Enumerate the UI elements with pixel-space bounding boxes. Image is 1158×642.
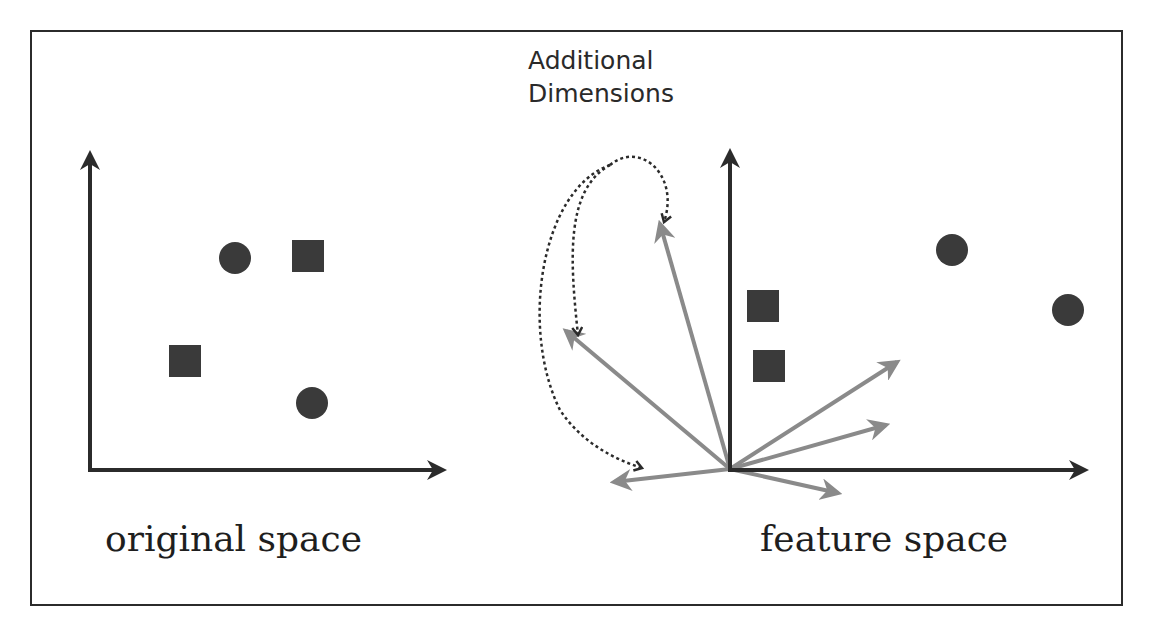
feature-space-label: feature space: [760, 518, 1008, 559]
vector-arrow: [660, 224, 730, 469]
square-marker: [169, 345, 201, 377]
dotted-arrow: [573, 165, 610, 335]
figure-canvas: Additional Dimensions original space fea…: [0, 0, 1158, 642]
dotted-arrow: [540, 165, 642, 468]
vector-arrow: [730, 425, 886, 469]
original-space-plot: [88, 154, 443, 472]
vector-arrow: [614, 469, 730, 482]
additional-dimension-pointers: [540, 157, 668, 468]
circle-marker: [219, 242, 251, 274]
additional-dimensions-title: Additional Dimensions: [528, 44, 748, 110]
original-space-label: original space: [105, 518, 362, 559]
square-marker: [753, 350, 785, 382]
square-marker: [292, 240, 324, 272]
title-line: Additional: [528, 44, 748, 77]
square-marker: [747, 290, 779, 322]
dotted-arrow: [610, 157, 668, 222]
circle-marker: [1052, 294, 1084, 326]
circle-marker: [296, 387, 328, 419]
vector-arrow: [566, 331, 730, 469]
vector-arrow: [730, 469, 838, 493]
title-line: Dimensions: [528, 77, 748, 110]
circle-marker: [936, 234, 968, 266]
feature-space-plot: [540, 152, 1085, 493]
